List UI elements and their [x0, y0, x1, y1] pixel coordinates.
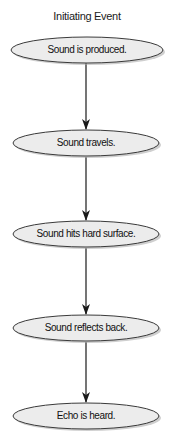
- edge-n4-n5: [82, 342, 90, 403]
- flowchart-canvas: [0, 0, 170, 439]
- edge-n2-n3: [82, 157, 90, 221]
- edge-n3-n4: [82, 248, 90, 315]
- node-n5-label: Echo is heard.: [13, 409, 159, 423]
- node-n2-label: Sound travels.: [13, 136, 159, 150]
- edge-n1-n2: [82, 63, 90, 130]
- node-n3-label: Sound hits hard surface.: [13, 227, 159, 241]
- node-n4-label: Sound reflects back.: [13, 321, 159, 335]
- node-n1-label: Sound is produced.: [11, 43, 163, 57]
